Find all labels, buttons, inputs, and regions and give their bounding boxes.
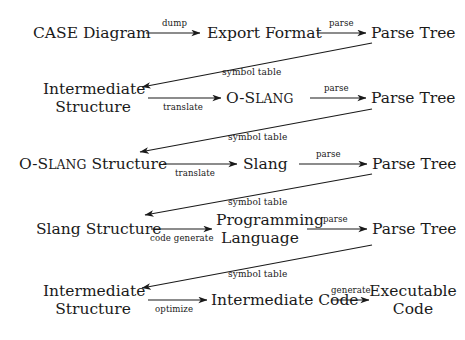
node-label-line-2: Structure [43,300,143,318]
edge-label-symbol-table-4: symbol table [228,269,287,279]
edge-label-dump: dump [162,18,187,28]
node-label-prefix: O-S [19,155,48,173]
node-intermediate-structure-2[interactable]: Intermediate Structure [43,282,143,318]
node-programming-language[interactable]: Programming Language [216,211,304,247]
edge-label-parse-2: parse [324,83,349,93]
node-label-smallcaps: LANG [48,157,86,172]
node-slang[interactable]: Slang [243,155,288,173]
node-label: Parse Tree [372,220,457,238]
edge-feedback-1 [142,43,372,87]
node-label: Parse Tree [372,155,457,173]
node-label-line-1: Intermediate [43,282,143,300]
edge-label-generate: generate [331,285,371,295]
node-label: Slang [243,155,288,173]
edge-label-symbol-table-3: symbol table [228,197,287,207]
node-label-line-2: Code [369,300,457,318]
node-label-line-2: Language [216,229,304,247]
edge-feedback-3 [145,174,372,215]
node-label-line-2: Structure [43,98,143,116]
node-label-line-1: Programming [216,211,304,229]
node-label-line-1: Executable [369,282,457,300]
node-label: CASE Diagram [33,24,151,42]
node-label-suffix: Structure [86,155,167,173]
edge-label-parse-1: parse [329,18,354,28]
node-label-line-1: Intermediate [43,80,143,98]
node-export-format[interactable]: Export Format [207,24,322,42]
node-label: Slang Structure [36,220,161,238]
node-label-smallcaps: LANG [255,91,293,106]
diagram-canvas: CASE Diagram dump Export Format parse Pa… [0,0,465,340]
edge-label-parse-4: parse [323,214,348,224]
node-parse-tree-2[interactable]: Parse Tree [371,89,456,107]
node-parse-tree-3[interactable]: Parse Tree [372,155,457,173]
edge-label-translate-1: translate [163,102,203,112]
node-case-diagram[interactable]: CASE Diagram [33,24,151,42]
node-label-prefix: O-S [226,89,255,107]
edge-feedback-2 [140,109,372,152]
node-label: Parse Tree [371,24,456,42]
node-slang-structure[interactable]: Slang Structure [36,220,161,238]
node-executable-code[interactable]: Executable Code [369,282,457,318]
edge-label-parse-3: parse [316,149,341,159]
node-label: Parse Tree [371,89,456,107]
edge-label-translate-2: translate [175,168,215,178]
node-o-slang[interactable]: O-SLANG [226,89,293,108]
node-parse-tree-4[interactable]: Parse Tree [372,220,457,238]
node-intermediate-structure-1[interactable]: Intermediate Structure [43,80,143,116]
node-parse-tree-1[interactable]: Parse Tree [371,24,456,42]
edge-feedback-4 [142,245,372,288]
edge-label-code-generate: code generate [150,233,214,243]
edge-label-symbol-table-2: symbol table [228,132,287,142]
node-label: Export Format [207,24,322,42]
edge-label-symbol-table-1: symbol table [222,67,281,77]
edge-label-optimize: optimize [155,304,193,314]
node-o-slang-structure[interactable]: O-SLANG Structure [19,155,167,174]
